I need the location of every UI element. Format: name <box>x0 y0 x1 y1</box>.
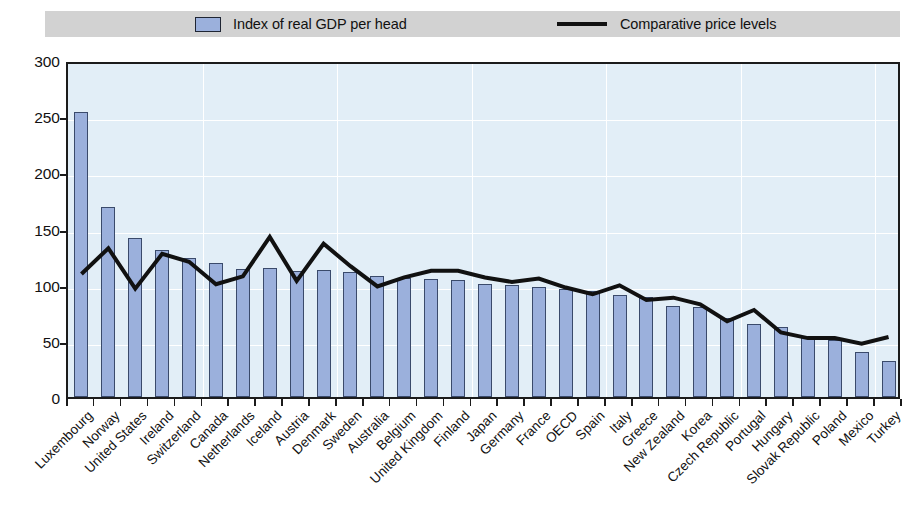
bar <box>128 238 142 398</box>
x-axis-label: Spain <box>572 408 607 443</box>
bar <box>855 352 869 397</box>
plot-inner <box>68 64 898 397</box>
line-swatch-icon <box>557 22 607 26</box>
x-axis-labels: LuxembourgNorwayUnited StatesIrelandSwit… <box>0 404 922 530</box>
bar <box>774 327 788 397</box>
legend-label-price-levels: Comparative price levels <box>620 16 776 32</box>
bar <box>182 258 196 397</box>
y-tick-label: 50 <box>6 334 60 352</box>
bar <box>74 112 88 397</box>
y-tick-label: 300 <box>6 53 60 71</box>
bar <box>639 297 653 397</box>
y-tick-label: 250 <box>6 109 60 127</box>
bar <box>155 250 169 397</box>
bar <box>317 270 331 397</box>
bar <box>101 207 115 397</box>
bar <box>451 280 465 397</box>
legend-label-gdp-index: Index of real GDP per head <box>233 16 407 32</box>
bar-swatch-icon <box>195 17 221 32</box>
bar <box>666 306 680 397</box>
plot-area <box>66 62 900 399</box>
bar <box>882 361 896 397</box>
bar <box>586 291 600 397</box>
y-tick-label: 150 <box>6 222 60 240</box>
legend-item-price-levels: Comparative price levels <box>557 11 776 37</box>
gridline-vertical <box>741 64 742 397</box>
gridline-vertical <box>472 64 473 397</box>
bar <box>290 271 304 397</box>
gridline-horizontal <box>68 176 898 177</box>
bar <box>505 285 519 397</box>
bar <box>720 318 734 397</box>
bar <box>828 340 842 397</box>
bar <box>236 269 250 397</box>
bar <box>397 278 411 397</box>
gridline-horizontal <box>68 233 898 234</box>
bar <box>693 307 707 397</box>
bar <box>613 295 627 397</box>
bar <box>343 272 357 397</box>
y-tick-label: 100 <box>6 278 60 296</box>
chart-legend: Index of real GDP per head Comparative p… <box>45 11 900 37</box>
y-tick-label: 200 <box>6 165 60 183</box>
gridline-vertical <box>203 64 204 397</box>
bar <box>263 268 277 397</box>
bar <box>209 263 223 397</box>
bar <box>801 337 815 397</box>
bar <box>424 279 438 397</box>
bar <box>747 324 761 397</box>
legend-item-gdp-index: Index of real GDP per head <box>195 11 407 37</box>
bar <box>532 287 546 397</box>
gridline-vertical <box>337 64 338 397</box>
gdp-price-level-chart: Index of real GDP per head Comparative p… <box>0 0 922 530</box>
gridline-horizontal <box>68 120 898 121</box>
bar <box>478 284 492 397</box>
y-axis: 050100150200250300 <box>0 62 60 399</box>
gridline-vertical <box>875 64 876 397</box>
bar <box>559 289 573 397</box>
gridline-vertical <box>606 64 607 397</box>
bar <box>370 276 384 397</box>
